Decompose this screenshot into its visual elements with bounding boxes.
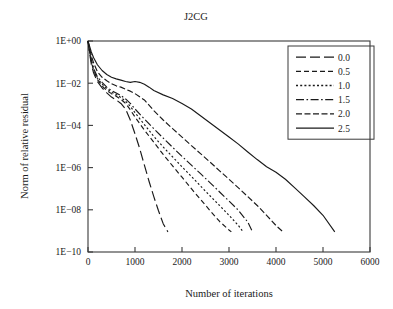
x-tick-label: 2000: [173, 257, 192, 267]
convergence-chart: J2CG 0100020003000400050006000 1E+001E−0…: [0, 0, 393, 309]
x-axis-title: Number of iterations: [185, 288, 272, 299]
x-tick-label: 6000: [361, 257, 380, 267]
legend-label-1-5: 1.5: [338, 95, 350, 105]
y-tick-label: 1E−04: [56, 121, 82, 131]
y-tick-label: 1E−10: [56, 247, 82, 257]
x-tick-label: 1000: [126, 257, 145, 267]
x-tick-label: 5000: [314, 257, 333, 267]
legend-label-0-5: 0.5: [338, 67, 350, 77]
x-tick-label: 4000: [267, 257, 286, 267]
legend-label-2-0: 2.0: [338, 109, 350, 119]
y-tick-label: 1E−06: [56, 163, 82, 173]
y-tick-label: 1E+00: [56, 36, 82, 46]
legend-label-0-0: 0.0: [338, 53, 350, 63]
y-tick-label: 1E−08: [56, 205, 82, 215]
y-axis-title: Norm of relative residual: [19, 93, 30, 199]
x-tick-label: 3000: [220, 257, 239, 267]
x-tick-label: 0: [86, 257, 91, 267]
chart-title: J2CG: [184, 11, 208, 22]
legend-label-1-0: 1.0: [338, 81, 350, 91]
legend-label-2-5: 2.5: [338, 124, 350, 134]
y-tick-label: 1E−02: [56, 79, 82, 89]
